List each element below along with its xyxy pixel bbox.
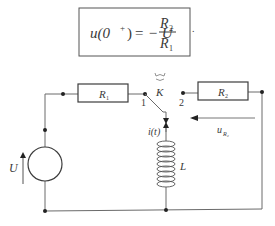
switch-pos-1: 1 xyxy=(141,97,146,108)
arrow-left-icon xyxy=(190,115,198,121)
circuit-diagram: u(0 + ) = − U R 2 R 1 . R 1 R xyxy=(0,0,275,226)
formula-denominator: R xyxy=(159,36,169,51)
switch-k: K 1 2 xyxy=(141,73,184,118)
switch-pos-2: 2 xyxy=(179,97,184,108)
wires xyxy=(45,92,262,211)
svg-text:u: u xyxy=(217,124,222,135)
switch-action-icon xyxy=(155,73,165,76)
inductor-l xyxy=(157,132,175,187)
svg-text:R₂: R₂ xyxy=(222,131,229,137)
formula-numerator: R xyxy=(159,16,169,31)
voltage-source: U xyxy=(9,147,62,184)
svg-text:U: U xyxy=(9,161,19,175)
junction-dots xyxy=(43,90,264,213)
svg-text:R: R xyxy=(217,86,225,98)
switch-label: K xyxy=(155,86,164,98)
formula-sup: + xyxy=(120,23,125,33)
svg-text:R: R xyxy=(98,88,106,100)
formula-box: u(0 + ) = − U R 2 R 1 xyxy=(79,8,190,56)
inductor-label: L xyxy=(179,160,186,172)
resistor-r1: R 1 xyxy=(78,84,128,102)
svg-text:i(t): i(t) xyxy=(148,126,161,138)
formula-denominator-sub: 1 xyxy=(169,44,173,53)
svg-text:1: 1 xyxy=(106,95,109,101)
formula-lhs: u(0 xyxy=(90,25,110,42)
voltage-ur2-arrow: u R₂ xyxy=(190,115,255,137)
formula-lhs-close: ) xyxy=(127,25,132,42)
resistor-r2: R 2 xyxy=(198,82,248,100)
arrow-up-icon xyxy=(20,152,26,158)
formula-trailing-dot: . xyxy=(192,23,195,34)
svg-text:2: 2 xyxy=(225,93,228,99)
